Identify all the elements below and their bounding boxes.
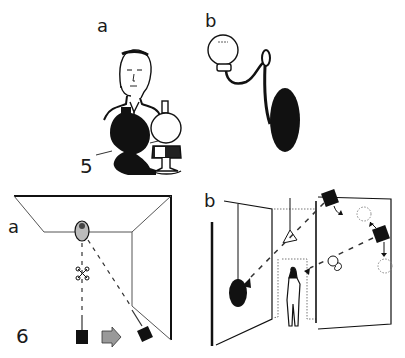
spotlight-right: [372, 225, 390, 243]
circular-shadow: [229, 279, 247, 307]
move-arrow-icon: [102, 327, 121, 347]
ghost-position-2: [378, 259, 392, 273]
sconce-arm: [226, 62, 264, 84]
lamp-fixture-icon: [328, 256, 341, 271]
lamp-shadow: [110, 107, 156, 175]
panel-6a: [14, 196, 171, 347]
globe-lamp: [208, 35, 238, 65]
ghost-position-1: [357, 207, 371, 221]
panel-5a: [96, 50, 181, 175]
camera-original: [76, 330, 88, 344]
oil-lamp: [151, 101, 181, 174]
panel-5b: [208, 35, 300, 152]
figure-top-view: [75, 221, 89, 241]
camera-moved: [137, 326, 153, 342]
illustration-canvas: [0, 0, 405, 358]
panel-6b: [212, 189, 392, 346]
standing-person: [287, 267, 300, 326]
sconce-shadow: [270, 88, 300, 152]
